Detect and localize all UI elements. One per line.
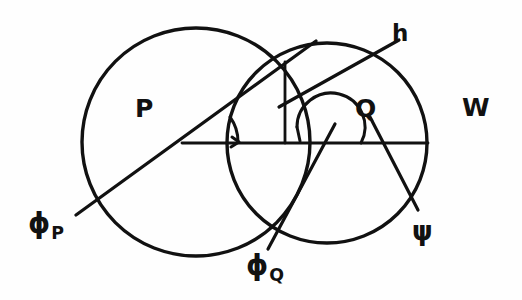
ray-psi [370,117,418,210]
label-region-w: W [462,95,490,120]
h-leader-line [279,40,399,107]
label-height-h: h [392,22,408,45]
label-angle-phi-q-glyph: ϕ [246,249,268,282]
label-angle-phi-q-subscript: Q [269,265,284,285]
label-angle-phi-q: ϕQ [246,252,284,284]
label-circle-q: Q [355,96,376,121]
figure-canvas: P Q W h ϕP ϕQ ψ [0,0,522,300]
angle-arc-psi-foot-tick [297,127,300,141]
label-circle-p: P [135,96,153,121]
label-angle-psi: ψ [412,218,433,244]
label-angle-phi-p-subscript: P [51,223,64,243]
label-angle-phi-p-glyph: ϕ [28,207,50,240]
label-angle-phi-p: ϕP [28,210,64,242]
